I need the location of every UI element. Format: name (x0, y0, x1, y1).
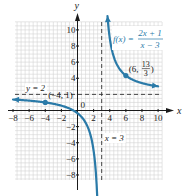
origin-label: 0 (81, 100, 86, 110)
x-tick-label: −6 (24, 113, 34, 123)
horizontal-asymptote-label: y = 2 (25, 83, 46, 93)
x-axis-arrow-icon (166, 108, 174, 113)
y-axis-arrow-icon (75, 13, 80, 21)
y-tick-label: −4 (66, 138, 76, 148)
x-axis-label: x (176, 105, 182, 116)
fraction-denominator: 3 (144, 69, 148, 78)
x-tick-label: 6 (124, 113, 129, 123)
x-tick-label: −2 (57, 113, 67, 123)
x-tick-label: 8 (140, 113, 145, 123)
x-tick-label: 4 (107, 113, 112, 123)
y-tick-label: 4 (71, 73, 76, 83)
data-point (123, 73, 128, 78)
function-label-denominator: x − 3 (139, 40, 160, 50)
point-label-close-paren: ) (151, 64, 154, 74)
fraction-numerator: 13 (142, 60, 150, 69)
x-tick-label: −4 (40, 113, 50, 123)
y-axis-label: y (74, 0, 80, 11)
x-tick-label: 10 (154, 113, 164, 123)
right-branch-up-arrow-icon (105, 16, 111, 22)
data-point (43, 100, 48, 105)
y-tick-label: −6 (66, 154, 76, 164)
x-tick-label: 2 (91, 113, 96, 123)
y-tick-label: −8 (66, 170, 76, 180)
function-label-prefix: f(x) = (113, 34, 134, 44)
y-tick-label: 6 (71, 57, 76, 67)
point-label-neg4-1: (−4, 1) (48, 90, 73, 100)
x-tick-label: −8 (8, 113, 18, 123)
vertical-asymptote-label: x = 3 (104, 133, 125, 143)
function-label-numerator: 2x + 1 (138, 28, 162, 38)
y-tick-label: −2 (66, 122, 76, 132)
y-tick-label: 10 (67, 25, 77, 35)
function-graph: xy −8−6−4−224681010864−2−4−6−80 (−4, 1)(… (0, 0, 183, 196)
point-label-6-13-3: (6, (129, 64, 139, 74)
left-branch-arrow-icon (13, 97, 19, 103)
y-tick-label: 8 (71, 41, 76, 51)
